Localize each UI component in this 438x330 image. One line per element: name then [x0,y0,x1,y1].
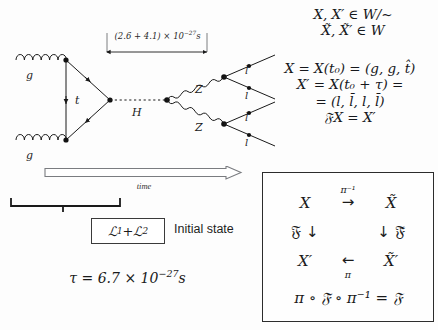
state-definition-line-1: X = X(t₀) = (g, g, t̂) [264,60,436,76]
top-quark-label: t [75,94,80,107]
cd-top-arrow-glyph: → [342,193,355,211]
cd-top-arrow: π⁻¹ → [342,195,355,210]
figure-canvas: g g t H Z Z l̄ l l̄ l (2.6 + 4.1) × 10−2… [0,0,438,330]
cd-top-arrow-label: π⁻¹ [340,185,355,195]
initial-state-group: ℒ1 + ℒ2 Initial state [8,196,248,248]
cd-right-arrow-glyph: ↓ [377,225,390,240]
commutative-diagram-grid: X π⁻¹ → X̃ 𝔉 ↓ ↓ 𝔉̃ X′ ← π X̃′ [282,188,414,276]
cd-left-arrow-glyph: ↓ [306,225,319,240]
lagrangian-plus: + [123,224,134,239]
gluon-bottom-label: g [26,149,33,162]
tau-suffix: s [179,270,186,286]
lagrangian-index-2: 2 [142,226,148,236]
z-boson-lower [167,100,223,122]
lagrangian-symbol-1: ℒ [108,224,117,239]
set-membership-line-1: X, X′ ∈ W/~ [272,6,434,22]
lifetime-annotation: (2.6 + 4.1) × 10−27s [100,30,215,41]
higgs-label: H [131,106,142,119]
feynman-diagram-svg: g g t H Z Z l̄ l l̄ l [0,0,285,168]
cd-right-vertical: ↓ 𝔉̃ [377,222,404,241]
cd-right-functor-symbol: 𝔉̃ [395,222,405,241]
state-definition-line-2: X′ = X(t₀ + τ) = [264,76,436,92]
lepton-label-4: l [245,137,248,148]
initial-state-caption: Initial state [174,222,234,236]
gluon-top [16,54,66,60]
set-membership-block: X, X′ ∈ W/~ X̃, X̃′ ∈ W [272,6,434,39]
cd-bottom-right-object: X̃′ [384,252,398,270]
state-definition-block: X = X(t₀) = (g, g, t̂) X′ = X(t₀ + τ) = … [264,60,436,126]
cd-bottom-arrow-label: π [345,270,351,280]
cd-left-functor-symbol: 𝔉 [291,222,301,241]
lagrangian-sum-box: ℒ1 + ℒ2 [91,218,165,244]
feynman-diagram: g g t H Z Z l̄ l l̄ l (2.6 + 4.1) × 10−2… [0,0,285,168]
gluon-top-label: g [26,69,33,82]
lifetime-prefix: (2.6 + 4.1) × 10 [114,31,184,41]
lifetime-suffix: s [196,31,200,41]
vertex-dots-left [63,57,112,142]
set-membership-line-2: X̃, X̃′ ∈ W [272,22,434,38]
commutative-composition-equation: π ∘ 𝔉̃ ∘ π⁻¹ = 𝔉 [294,289,402,307]
commutative-diagram-box: X π⁻¹ → X̃ 𝔉 ↓ ↓ 𝔉̃ X′ ← π X̃′ [262,172,434,322]
tau-equation: τ = 6.7 × 10−27s [0,268,255,286]
cd-top-left-object: X [300,194,311,212]
top-quark-loop [66,60,110,140]
lifetime-exponent: −27 [184,30,196,36]
lepton-label-2: l [245,90,248,101]
z-upper-label: Z [194,83,203,96]
gluon-bottom [16,134,66,140]
time-axis: time [44,166,244,196]
cd-bottom-arrow-glyph: ← [342,251,355,269]
time-axis-label: time [44,181,244,191]
state-definition-line-4: 𝔉X = X′ [264,109,436,125]
initial-state-brace [8,196,148,220]
state-definition-line-3: = (l, l̄, l, l̄) [264,93,436,109]
tau-exponent: −27 [158,268,178,279]
z-lower-label: Z [194,121,203,134]
cd-bottom-arrow: ← π [342,253,355,268]
cd-top-right-object: X̃ [386,194,397,212]
tau-prefix: τ = 6.7 × 10 [69,270,158,286]
cd-left-vertical: 𝔉 ↓ [291,222,318,241]
cd-bottom-left-object: X′ [298,252,312,270]
